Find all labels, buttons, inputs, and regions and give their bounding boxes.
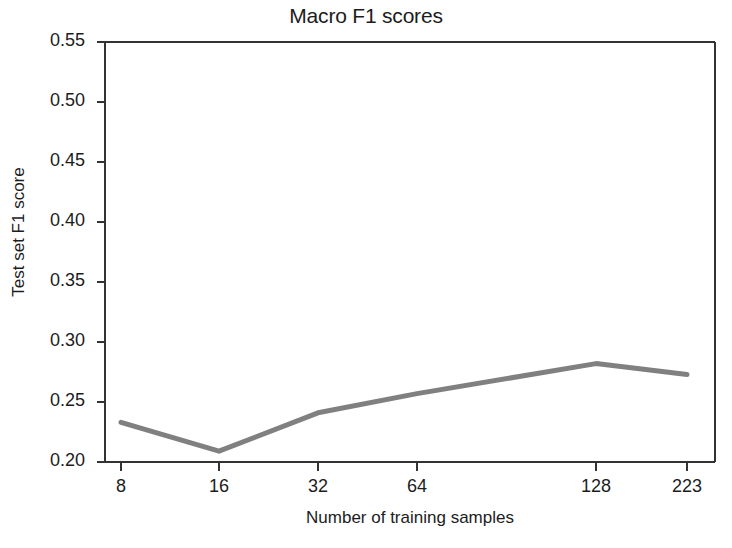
y-tick-label: 0.25: [21, 390, 85, 411]
x-tick-label: 223: [652, 476, 722, 497]
plot-area: [0, 0, 732, 548]
x-tick-label: 8: [86, 476, 156, 497]
x-tick-label: 64: [382, 476, 452, 497]
x-axis-ticks: [121, 462, 687, 471]
y-tick-label: 0.30: [21, 330, 85, 351]
y-tick-label: 0.35: [21, 270, 85, 291]
x-tick-label: 16: [184, 476, 254, 497]
plot-background: [105, 42, 715, 462]
y-tick-label: 0.50: [21, 90, 85, 111]
chart-figure: Macro F1 scores Test set F1 score Number…: [0, 0, 732, 548]
y-tick-label: 0.55: [21, 30, 85, 51]
x-tick-label: 128: [561, 476, 631, 497]
y-axis-ticks: [97, 42, 105, 462]
x-tick-label: 32: [283, 476, 353, 497]
y-tick-label: 0.40: [21, 210, 85, 231]
y-tick-label: 0.20: [21, 450, 85, 471]
y-tick-label: 0.45: [21, 150, 85, 171]
